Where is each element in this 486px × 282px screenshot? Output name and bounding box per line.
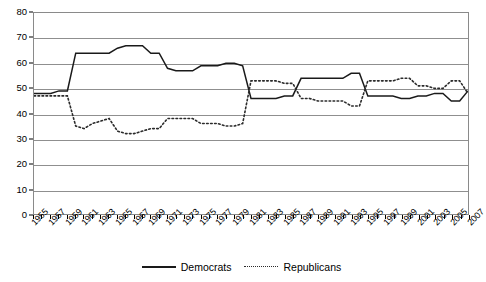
- plot-area: [33, 12, 469, 215]
- series-line-republicans: [34, 78, 468, 133]
- series-layer: [34, 13, 468, 214]
- legend-label: Republicans: [283, 261, 341, 273]
- chart-legend: DemocratsRepublicans: [0, 258, 483, 276]
- legend-label: Democrats: [181, 261, 232, 273]
- y-tick-label: 40: [16, 109, 27, 119]
- legend-swatch-solid-line-icon: [142, 263, 176, 271]
- y-tick-label: 50: [16, 83, 27, 93]
- y-tick-label: 20: [16, 160, 27, 170]
- y-axis: 01020304050607080: [0, 0, 33, 215]
- y-tick-label: 70: [16, 33, 27, 43]
- y-tick-label: 80: [16, 7, 27, 17]
- y-tick-label: 0: [22, 210, 27, 220]
- legend-swatch-dotted-line-icon: [244, 263, 278, 271]
- legend-entry-republicans[interactable]: Republicans: [244, 261, 341, 273]
- y-tick-label: 30: [16, 134, 27, 144]
- legend-entry-democrats[interactable]: Democrats: [142, 261, 232, 273]
- y-tick-label: 60: [16, 58, 27, 68]
- y-tick-label: 10: [16, 185, 27, 195]
- series-line-democrats: [34, 46, 468, 101]
